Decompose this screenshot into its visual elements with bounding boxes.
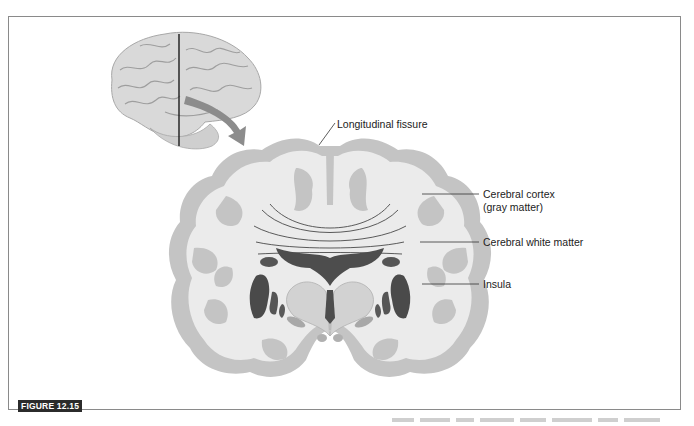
label-cerebral-cortex: Cerebral cortex — [483, 188, 555, 201]
cropped-caption-text — [392, 418, 682, 426]
figure-number-tag: FIGURE 12.15 — [18, 400, 82, 412]
label-longitudinal-fissure: Longitudinal fissure — [337, 118, 427, 131]
label-insula: Insula — [483, 278, 511, 291]
label-gray-matter: (gray matter) — [483, 201, 543, 214]
brain-illustration — [0, 0, 694, 426]
label-cerebral-white-matter: Cerebral white matter — [483, 236, 583, 249]
coronal-section — [169, 123, 491, 377]
